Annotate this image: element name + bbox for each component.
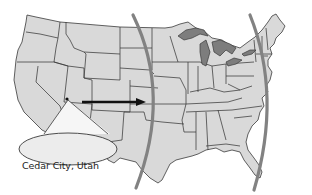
location-label: Cedar City, Utah xyxy=(22,160,132,171)
